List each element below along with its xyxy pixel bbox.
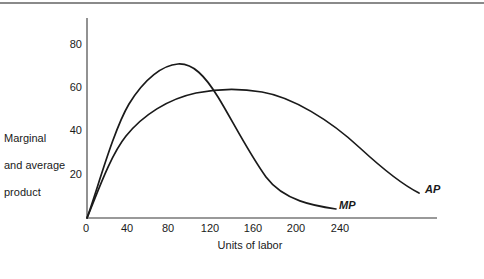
x-tick-0: 0 xyxy=(71,222,101,234)
x-tick-40: 40 xyxy=(112,222,142,234)
x-tick-80: 80 xyxy=(153,222,183,234)
y-axis-title-line3: product xyxy=(4,186,78,200)
x-tick-160: 160 xyxy=(238,222,268,234)
y-axis-title: Marginal and average product xyxy=(4,118,78,213)
y-tick-60: 60 xyxy=(58,81,82,93)
ap-curve-label: AP xyxy=(425,183,440,195)
mp-curve-label: MP xyxy=(339,199,356,211)
x-tick-200: 200 xyxy=(281,222,311,234)
y-axis-title-line2: and average xyxy=(4,159,78,173)
x-tick-120: 120 xyxy=(195,222,225,234)
figure-container: 80 60 40 20 0 40 80 120 160 200 240 Marg… xyxy=(0,0,484,279)
x-axis-title: Units of labor xyxy=(190,239,310,251)
x-tick-240: 240 xyxy=(325,222,355,234)
y-tick-80: 80 xyxy=(58,38,82,50)
mp-curve xyxy=(87,64,336,218)
y-axis-title-line1: Marginal xyxy=(4,132,78,146)
ap-curve xyxy=(87,89,419,218)
